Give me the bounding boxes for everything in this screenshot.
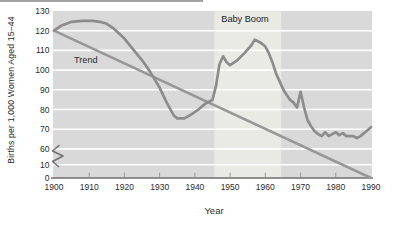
x-tick-label-1990: 1990 bbox=[362, 182, 381, 192]
x-axis-title: Year bbox=[191, 205, 237, 216]
trend-line-label: Trend bbox=[74, 55, 114, 65]
x-tick-label-1930: 1930 bbox=[150, 182, 169, 192]
y-tick-label-70: 70 bbox=[40, 124, 50, 134]
y-tick-label-110: 110 bbox=[36, 45, 50, 55]
x-tick-label-1970: 1970 bbox=[291, 182, 310, 192]
y-tick-label-60: 60 bbox=[40, 144, 50, 154]
y-axis-title: Births per 1,000 Women Aged 15–44 bbox=[6, 4, 20, 176]
y-tick-label-90: 90 bbox=[40, 85, 50, 95]
chart-canvas: 1900191019201930194019501960197019801990… bbox=[0, 0, 398, 227]
x-tick-label-1920: 1920 bbox=[115, 182, 134, 192]
y-axis-tick-labels: 01060708090100110120130 bbox=[35, 6, 49, 183]
y-tick-label-80: 80 bbox=[40, 105, 50, 115]
y-tick-label-120: 120 bbox=[35, 26, 49, 36]
x-tick-label-1960: 1960 bbox=[256, 182, 275, 192]
y-tick-label-10: 10 bbox=[40, 160, 50, 170]
baby-boom-band-rect bbox=[214, 11, 281, 178]
birth-rate-chart: 1900191019201930194019501960197019801990… bbox=[0, 0, 398, 227]
x-tick-label-1900: 1900 bbox=[45, 182, 64, 192]
x-tick-label-1950: 1950 bbox=[221, 182, 240, 192]
x-tick-label-1980: 1980 bbox=[326, 182, 345, 192]
x-axis-tick-labels: 1900191019201930194019501960197019801990 bbox=[45, 182, 381, 192]
y-tick-label-0: 0 bbox=[45, 173, 50, 183]
x-tick-label-1910: 1910 bbox=[80, 182, 99, 192]
y-tick-label-100: 100 bbox=[35, 65, 49, 75]
y-tick-label-130: 130 bbox=[35, 6, 49, 16]
baby-boom-label: Baby Boom bbox=[212, 14, 278, 24]
x-tick-label-1940: 1940 bbox=[185, 182, 204, 192]
